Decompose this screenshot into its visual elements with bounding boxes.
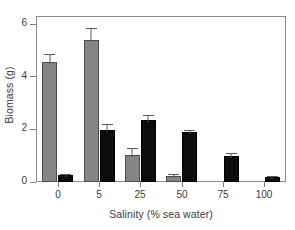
error-bar bbox=[132, 148, 133, 157]
bar-rect bbox=[141, 120, 156, 182]
chart-figure: Biomass (g) 0246 05255075100 Salinity (%… bbox=[0, 0, 295, 230]
error-bar-cap bbox=[60, 174, 71, 175]
y-axis-title: Biomass (g) bbox=[0, 0, 18, 190]
bar-rect bbox=[42, 62, 57, 182]
bar-rect bbox=[84, 40, 99, 182]
bar-black-25 bbox=[141, 24, 156, 182]
y-tick-4 bbox=[30, 76, 36, 77]
x-tick-5 bbox=[99, 182, 100, 187]
bar-rect bbox=[224, 156, 239, 182]
error-bar bbox=[148, 115, 149, 122]
y-tick-6 bbox=[30, 24, 36, 25]
x-axis-title: Salinity (% sea water) bbox=[36, 208, 286, 220]
bar-gray-0 bbox=[42, 24, 57, 182]
error-bar bbox=[173, 174, 174, 178]
bar-rect bbox=[125, 155, 140, 182]
error-bar-cap bbox=[226, 153, 237, 154]
error-bar-cap bbox=[143, 115, 154, 116]
error-bar bbox=[49, 54, 50, 65]
error-bar-cap bbox=[127, 148, 138, 149]
x-tick-label-50: 50 bbox=[167, 189, 197, 200]
bar-black-75 bbox=[224, 24, 239, 182]
bar-rect bbox=[100, 130, 115, 182]
bar-gray-25 bbox=[125, 24, 140, 182]
bar-rect bbox=[182, 132, 197, 182]
x-tick-0 bbox=[58, 182, 59, 187]
bar-black-0 bbox=[58, 24, 73, 182]
bar-black-50 bbox=[182, 24, 197, 182]
y-tick-0 bbox=[30, 182, 36, 183]
x-tick-label-75: 75 bbox=[208, 189, 238, 200]
error-bar-cap bbox=[102, 124, 113, 125]
error-bar-cap bbox=[168, 174, 179, 175]
y-tick-label-6: 6 bbox=[5, 18, 27, 28]
x-tick-75 bbox=[223, 182, 224, 187]
error-bar bbox=[91, 28, 92, 42]
bar-black-5 bbox=[100, 24, 115, 182]
bar-gray-50 bbox=[166, 24, 181, 182]
bars-layer bbox=[37, 24, 285, 182]
error-bar bbox=[65, 174, 66, 178]
y-tick-label-0: 0 bbox=[5, 176, 27, 186]
error-bar bbox=[189, 130, 190, 134]
bar-gray-5 bbox=[84, 24, 99, 182]
x-tick-label-0: 0 bbox=[43, 189, 73, 200]
error-bar-cap bbox=[184, 130, 195, 131]
x-tick-label-100: 100 bbox=[249, 189, 279, 200]
error-bar bbox=[107, 124, 108, 132]
x-tick-label-25: 25 bbox=[125, 189, 155, 200]
error-bar bbox=[231, 153, 232, 158]
bar-black-100 bbox=[265, 24, 280, 182]
y-tick-label-4: 4 bbox=[5, 71, 27, 81]
error-bar-cap bbox=[86, 28, 97, 29]
y-tick-label-2: 2 bbox=[5, 123, 27, 133]
x-tick-label-5: 5 bbox=[84, 189, 114, 200]
x-tick-100 bbox=[264, 182, 265, 187]
x-tick-25 bbox=[140, 182, 141, 187]
y-tick-2 bbox=[30, 129, 36, 130]
error-bar-cap bbox=[44, 54, 55, 55]
error-bar-cap bbox=[267, 176, 278, 177]
error-bar bbox=[272, 176, 273, 179]
x-tick-50 bbox=[182, 182, 183, 187]
